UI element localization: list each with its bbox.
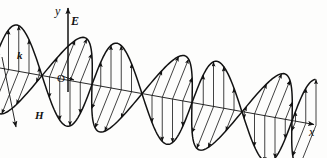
h-field-hatching: [0, 39, 316, 158]
origin-label: O: [57, 73, 65, 84]
h-field-label: H: [35, 110, 44, 121]
em-wave-canvas: [0, 0, 327, 158]
x-axis-label: x: [309, 126, 314, 138]
e-field-label: E: [71, 15, 79, 27]
wave-vector-label: k: [17, 50, 23, 61]
y-axis-label: y: [55, 5, 60, 17]
em-wave-figure: y E k O H x: [0, 0, 327, 158]
h-field-curve: [0, 37, 299, 158]
e-field-curve: [0, 25, 316, 158]
